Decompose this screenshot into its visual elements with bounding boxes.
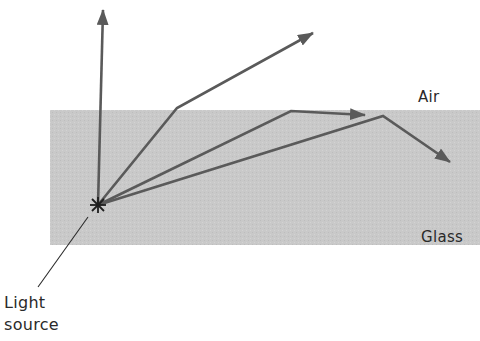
- glass-label: Glass: [421, 230, 463, 245]
- glass-region: [50, 110, 480, 245]
- light-source-label: Light source: [4, 292, 59, 336]
- light-source-star-icon: [90, 197, 106, 213]
- refraction-diagram: [0, 0, 480, 341]
- air-label: Air: [418, 90, 440, 105]
- light-source-label-line1: Light: [4, 292, 59, 314]
- light-source-label-line2: source: [4, 314, 59, 336]
